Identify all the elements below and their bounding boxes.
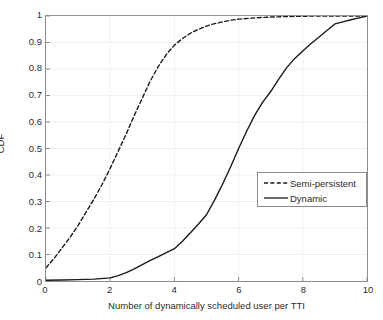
y-tick-label: 0.8 <box>6 64 42 74</box>
x-tick-label: 4 <box>159 285 189 295</box>
y-tick-label: 0.1 <box>6 251 42 261</box>
legend: Semi-persistent Dynamic <box>257 172 367 207</box>
y-tick-label: 1 <box>6 10 42 20</box>
x-tick-label: 6 <box>224 285 254 295</box>
legend-label-semi-persistent: Semi-persistent <box>290 178 356 189</box>
legend-label-dynamic: Dynamic <box>290 193 327 204</box>
y-tick-label: 0.4 <box>6 170 42 180</box>
y-tick-label: 0.2 <box>6 224 42 234</box>
x-tick-label: 0 <box>30 285 60 295</box>
y-tick-label: 0.6 <box>6 117 42 127</box>
x-axis-title: Number of dynamically scheduled user per… <box>45 300 368 311</box>
legend-sample-dashed-icon <box>263 178 289 188</box>
x-tick-label: 10 <box>353 285 383 295</box>
y-axis-title: CDF <box>0 134 6 154</box>
series-line-dynamic <box>46 16 367 280</box>
y-tick-label: 0.7 <box>6 90 42 100</box>
legend-item-dynamic: Dynamic <box>258 190 366 206</box>
x-tick-label: 2 <box>95 285 125 295</box>
plot-area <box>45 15 368 282</box>
legend-sample-solid-icon <box>263 193 289 203</box>
legend-item-semi-persistent: Semi-persistent <box>258 175 366 191</box>
y-tick-label: 0.5 <box>6 144 42 154</box>
y-tick-label: 0.9 <box>6 37 42 47</box>
data-curves <box>46 16 367 281</box>
y-tick-label: 0.3 <box>6 197 42 207</box>
series-line-semi-persistent <box>46 16 367 268</box>
x-tick-label: 8 <box>288 285 318 295</box>
cdf-chart-figure: 00.10.20.30.40.50.60.70.80.91 0246810 Nu… <box>0 0 383 320</box>
